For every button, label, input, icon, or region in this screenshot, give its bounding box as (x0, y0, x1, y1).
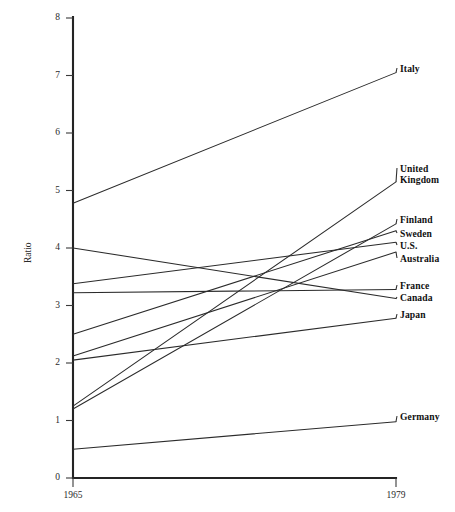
series-line-finland (73, 224, 396, 409)
leader-line-australia (396, 252, 397, 258)
series-label-sweden: Sweden (400, 228, 432, 239)
series-label-united-kingdom-line2: Kingdom (400, 174, 439, 185)
y-tick-label-4: 4 (44, 243, 60, 253)
leader-line-germany (396, 416, 397, 422)
series-label-united-kingdom: United Kingdom (400, 163, 439, 186)
series-label-germany: Germany (400, 411, 440, 422)
series-label-finland: Finland (400, 214, 433, 225)
series-label-france: France (400, 280, 429, 291)
series-line-germany (73, 422, 396, 450)
y-tick-label-6: 6 (44, 128, 60, 138)
leader-line-finland (396, 219, 397, 224)
x-axis-ticks (73, 478, 396, 487)
series-label-canada: Canada (400, 292, 433, 303)
series-label-italy: Italy (400, 63, 420, 74)
y-tick-label-5: 5 (44, 186, 60, 196)
series-line-japan (73, 318, 396, 360)
series-line-u-s (73, 242, 396, 283)
series-lines-group (73, 73, 396, 450)
series-label-us: U.S. (400, 240, 417, 251)
y-tick-label-2: 2 (44, 358, 60, 368)
leader-line-italy (396, 68, 397, 73)
leader-line-u-s (396, 242, 397, 245)
series-label-united-kingdom-line1: United (400, 163, 428, 174)
y-tick-label-7: 7 (44, 71, 60, 81)
chart-plot-area (0, 0, 455, 512)
label-leader-lines-group (396, 68, 397, 422)
leader-line-japan (396, 314, 397, 318)
series-label-japan: Japan (400, 309, 426, 320)
y-tick-label-8: 8 (44, 13, 60, 23)
leader-line-united-kingdom (396, 168, 397, 182)
y-axis-title: Ratio (24, 233, 34, 273)
series-line-united-kingdom (73, 182, 396, 406)
series-line-sweden (73, 231, 396, 335)
ratio-line-chart: 8 7 6 5 4 3 2 1 0 Ratio 1965 1979 Italy … (0, 0, 455, 512)
y-tick-label-0: 0 (44, 473, 60, 483)
series-line-italy (73, 73, 396, 204)
leader-line-canada (396, 297, 397, 299)
y-tick-label-3: 3 (44, 301, 60, 311)
x-tick-label-1979: 1979 (376, 491, 416, 501)
series-line-australia (73, 252, 396, 356)
leader-line-sweden (396, 231, 397, 233)
series-label-australia: Australia (400, 253, 439, 264)
y-tick-label-1: 1 (44, 416, 60, 426)
leader-line-france (396, 285, 397, 289)
x-tick-label-1965: 1965 (53, 491, 93, 501)
